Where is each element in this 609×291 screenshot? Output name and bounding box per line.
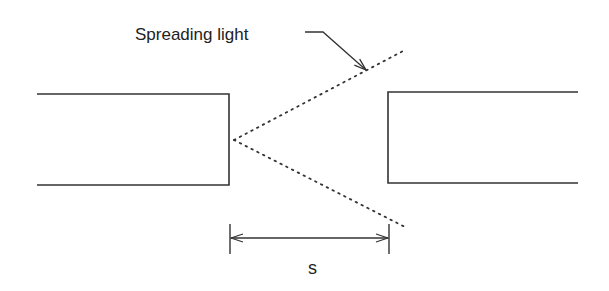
gap-dimension: s bbox=[230, 224, 389, 278]
right-fiber bbox=[388, 92, 578, 183]
left-fiber bbox=[37, 94, 229, 185]
dimension-label: s bbox=[308, 258, 317, 278]
light-cone bbox=[234, 50, 405, 227]
upper-light-ray bbox=[234, 50, 405, 140]
spreading-light-diagram: Spreading light s bbox=[0, 0, 609, 291]
leader-arrow-icon bbox=[305, 32, 366, 70]
spreading-light-label: Spreading light bbox=[135, 25, 249, 44]
lower-light-ray bbox=[234, 140, 405, 227]
